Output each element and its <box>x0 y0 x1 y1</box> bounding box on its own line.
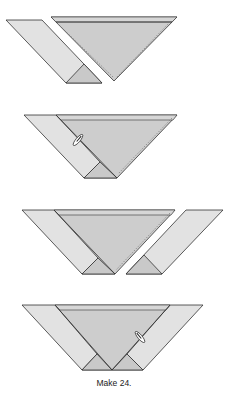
quilt-assembly-diagram <box>0 0 228 402</box>
top-band <box>54 210 175 215</box>
step-3 <box>22 210 223 274</box>
step-2 <box>24 115 177 178</box>
step-1 <box>6 17 177 83</box>
top-band <box>56 115 177 120</box>
step-4 <box>22 305 203 370</box>
top-band <box>51 17 177 22</box>
figure-caption: Make 24. <box>0 378 228 388</box>
top-band <box>55 305 170 310</box>
